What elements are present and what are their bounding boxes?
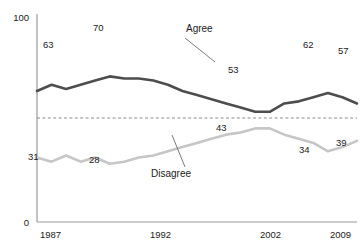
plot-background <box>0 0 363 244</box>
data-label-disagree-1992: 28 <box>89 154 100 165</box>
x-axis-tick-1987: 1987 <box>40 229 61 240</box>
x-axis-tick-2002: 2002 <box>260 229 281 240</box>
disagree-series-annotation-label: Disagree <box>151 168 191 179</box>
data-label-agree-1992: 70 <box>93 22 104 33</box>
y-axis-tick-0: 0 <box>24 217 29 228</box>
data-label-disagree-2007: 34 <box>299 144 310 155</box>
data-label-disagree-2009: 39 <box>336 137 347 148</box>
x-axis-tick-1992: 1992 <box>150 229 171 240</box>
chart-container: 100 0 1987 1992 2002 2009 63 70 53 62 57… <box>0 0 363 244</box>
data-label-agree-1987: 63 <box>43 39 54 50</box>
data-label-agree-2002: 53 <box>228 64 239 75</box>
line-chart-plot: 100 0 1987 1992 2002 2009 63 70 53 62 57… <box>0 0 363 244</box>
y-axis-tick-100: 100 <box>13 12 29 23</box>
x-axis-tick-2009: 2009 <box>330 229 351 240</box>
data-label-agree-2007: 62 <box>303 39 314 50</box>
data-label-disagree-1987: 31 <box>28 151 39 162</box>
data-label-agree-2009: 57 <box>338 45 349 56</box>
agree-series-annotation-label: Agree <box>186 23 213 34</box>
data-label-disagree-2001: 43 <box>216 122 227 133</box>
